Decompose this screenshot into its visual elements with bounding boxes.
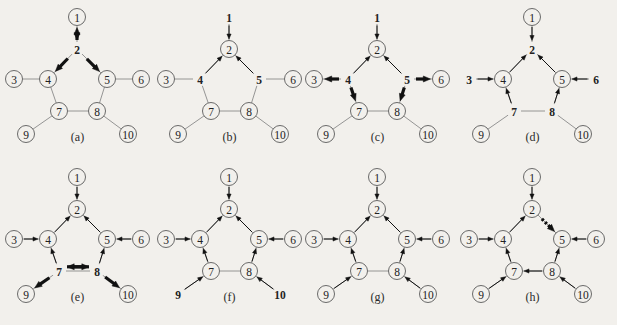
- arrow-4-to-2: [55, 216, 70, 232]
- edge-8-10: [104, 116, 121, 129]
- node-1[interactable]: 1: [222, 10, 236, 24]
- arrow-1-to-2: [75, 187, 79, 199]
- node-8[interactable]: 8: [545, 104, 559, 118]
- node-3[interactable]: 3: [158, 231, 175, 248]
- node-1[interactable]: 1: [221, 169, 238, 186]
- node-5[interactable]: 5: [554, 71, 571, 88]
- node-6[interactable]: 6: [588, 231, 605, 248]
- arrow-shaft: [334, 279, 348, 289]
- node-7[interactable]: 7: [51, 103, 68, 120]
- node-7[interactable]: 7: [203, 263, 220, 280]
- node-label: 7: [208, 266, 214, 278]
- node-1[interactable]: 1: [524, 169, 541, 186]
- node-7[interactable]: 7: [351, 103, 368, 120]
- node-label: 1: [529, 172, 535, 184]
- arrow-shaft: [510, 219, 523, 232]
- node-2[interactable]: 2: [369, 41, 386, 58]
- node-2[interactable]: 2: [221, 201, 238, 218]
- arrow-10-to-8: [257, 277, 273, 289]
- panel-caption: (a): [0, 130, 155, 145]
- node-3[interactable]: 3: [158, 71, 175, 88]
- node-label: 3: [466, 74, 472, 86]
- node-label: 3: [11, 74, 17, 86]
- node-5[interactable]: 5: [554, 231, 571, 248]
- node-2[interactable]: 2: [524, 201, 541, 218]
- arrow-shaft: [207, 219, 220, 232]
- node-1[interactable]: 1: [369, 169, 386, 186]
- node-3[interactable]: 3: [306, 231, 323, 248]
- node-5[interactable]: 5: [400, 72, 414, 86]
- node-4[interactable]: 4: [495, 71, 512, 88]
- node-4[interactable]: 4: [495, 231, 512, 248]
- node-8[interactable]: 8: [544, 263, 561, 280]
- node-6[interactable]: 6: [433, 71, 450, 88]
- node-5[interactable]: 5: [399, 231, 416, 248]
- arrow-9-to-7: [489, 277, 506, 289]
- node-label: 2: [74, 44, 80, 56]
- node-8[interactable]: 8: [241, 263, 258, 280]
- node-label: 3: [466, 234, 472, 246]
- panel-h: 12345678910(h): [455, 160, 610, 322]
- node-7[interactable]: 7: [351, 263, 368, 280]
- arrow-8-to-5: [252, 249, 257, 262]
- node-6[interactable]: 6: [589, 72, 603, 86]
- node-8[interactable]: 8: [90, 264, 104, 278]
- arrow-1-to-2: [375, 187, 379, 199]
- node-4[interactable]: 4: [40, 231, 57, 248]
- arrow-5-to-2: [384, 216, 400, 232]
- node-3[interactable]: 3: [306, 71, 323, 88]
- panel-caption: (b): [152, 130, 307, 145]
- arrow-shaft: [206, 59, 220, 73]
- edge-5-8: [252, 86, 257, 103]
- node-8[interactable]: 8: [241, 103, 258, 120]
- panel-c: 12345678910(c): [300, 0, 455, 162]
- node-label: 2: [74, 204, 80, 216]
- node-5[interactable]: 5: [99, 231, 116, 248]
- node-4[interactable]: 4: [40, 71, 57, 88]
- node-3[interactable]: 3: [6, 71, 23, 88]
- node-2[interactable]: 2: [69, 201, 86, 218]
- node-8[interactable]: 8: [89, 103, 106, 120]
- node-5[interactable]: 5: [251, 231, 268, 248]
- node-2[interactable]: 2: [70, 42, 84, 56]
- node-5[interactable]: 5: [99, 71, 116, 88]
- arrow-8-to-7: [67, 264, 89, 270]
- node-4[interactable]: 4: [341, 72, 355, 86]
- node-8[interactable]: 8: [389, 103, 406, 120]
- node-4[interactable]: 4: [193, 72, 207, 86]
- node-7[interactable]: 7: [52, 264, 66, 278]
- arrow-1-to-2: [375, 26, 379, 40]
- arrow-8-to-5: [100, 249, 105, 263]
- node-6[interactable]: 6: [285, 231, 302, 248]
- arrow-5-to-2: [538, 55, 555, 72]
- node-5[interactable]: 5: [252, 72, 266, 86]
- node-7[interactable]: 7: [506, 263, 523, 280]
- node-label: 6: [138, 234, 144, 246]
- arrow-group: [478, 27, 588, 103]
- node-label: 2: [374, 204, 380, 216]
- node-4[interactable]: 4: [340, 231, 357, 248]
- arrow-6-to-5: [417, 237, 431, 241]
- node-7[interactable]: 7: [507, 104, 521, 118]
- node-6[interactable]: 6: [133, 231, 150, 248]
- node-3[interactable]: 3: [6, 231, 23, 248]
- node-7[interactable]: 7: [203, 103, 220, 120]
- node-6[interactable]: 6: [133, 71, 150, 88]
- node-1[interactable]: 1: [69, 9, 86, 26]
- arrow-1-to-2: [530, 27, 534, 41]
- node-1[interactable]: 1: [524, 9, 541, 26]
- node-4[interactable]: 4: [192, 231, 209, 248]
- node-6[interactable]: 6: [433, 231, 450, 248]
- node-3[interactable]: 3: [461, 231, 478, 248]
- node-8[interactable]: 8: [389, 263, 406, 280]
- arrow-6-to-5: [572, 77, 588, 81]
- node-2[interactable]: 2: [221, 41, 238, 58]
- node-label: 1: [74, 12, 80, 24]
- node-3[interactable]: 3: [462, 72, 476, 86]
- node-1[interactable]: 1: [370, 10, 384, 24]
- node-6[interactable]: 6: [285, 71, 302, 88]
- node-1[interactable]: 1: [69, 169, 86, 186]
- node-2[interactable]: 2: [369, 201, 386, 218]
- arrow-6-to-5: [269, 237, 283, 241]
- node-2[interactable]: 2: [525, 42, 539, 56]
